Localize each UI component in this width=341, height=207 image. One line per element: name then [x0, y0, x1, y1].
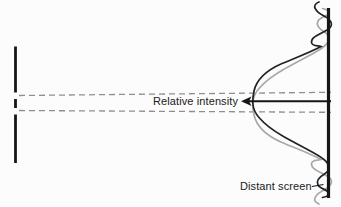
distant-screen-label: Distant screen [240, 180, 312, 192]
lower-dashed-ray-line [19, 111, 331, 113]
gray-intensity-curve [253, 9, 332, 205]
diffraction-diagram: Relative intensity Distant screen [0, 0, 341, 207]
dark-intensity-curve [253, 2, 332, 198]
relative-intensity-label: Relative intensity [153, 95, 238, 107]
